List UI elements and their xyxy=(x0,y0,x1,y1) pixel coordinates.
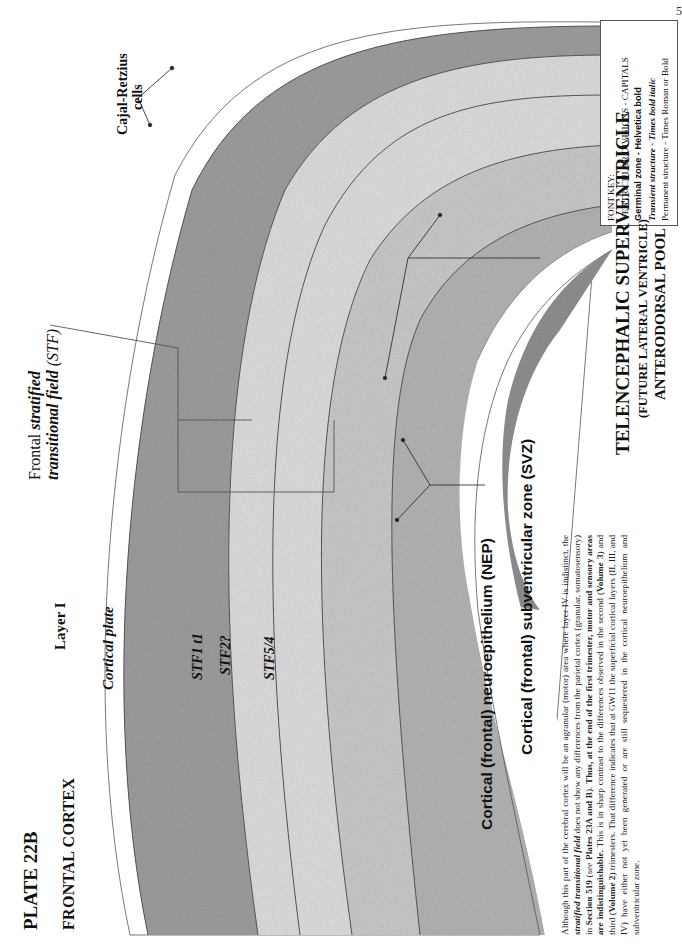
label-cajal-retzius-cells: cells xyxy=(130,84,146,110)
plate-title: PLATE 22B xyxy=(20,832,42,930)
ventricle-title: TELENCEPHALIC SUPERVENTRICLE xyxy=(612,111,634,455)
para-text: ) trimesters. That difference indicates … xyxy=(607,535,641,935)
label-stf-abbrev: (STF) xyxy=(44,329,61,370)
label-transitional-field: transitional field (STF) xyxy=(44,329,62,480)
label-svz: Cortical (frontal) subventricular zone (… xyxy=(518,439,536,755)
label-frontal-stf: Frontal stratified xyxy=(26,371,44,480)
label-stf1: STF1 t1 xyxy=(190,633,206,680)
label-transitional-field-text: transitional field xyxy=(44,370,61,480)
font-key-permanent: Permanent structure - Times Roman or Bol… xyxy=(659,25,673,221)
para-text: ). xyxy=(584,784,594,792)
ventricle-subtitle: (FUTURE LATERAL VENTRICLE) xyxy=(636,219,651,418)
para-text: Although this part of the cerebral corte… xyxy=(560,535,570,935)
para-text: This is in sharp contrast to the differe… xyxy=(595,592,605,850)
body-paragraph: Although this part of the cerebral corte… xyxy=(560,535,643,935)
label-stf2: STF2? xyxy=(218,635,234,675)
ventricle-pool: ANTERODORSAL POOL xyxy=(652,228,669,400)
para-bold: Plates 23A and B xyxy=(584,792,594,860)
label-cortical-plate: Cortical plate xyxy=(100,606,117,690)
label-layer-i: Layer I xyxy=(52,602,69,650)
label-stf54: STF5/4 xyxy=(262,636,278,680)
label-frontal: Frontal xyxy=(26,434,43,480)
para-bold: Section 519 xyxy=(584,880,594,925)
label-nep: Cortical (frontal) neuroepithelium (NEP) xyxy=(478,538,496,830)
font-key-germinal: Germinal zone - Helvetica bold xyxy=(632,25,646,221)
para-text: ( xyxy=(584,874,594,880)
para-bold: Volume 3 xyxy=(595,554,605,592)
para-italic: see xyxy=(584,863,594,875)
para-text xyxy=(584,860,594,863)
para-em: stratified transitional field xyxy=(572,836,582,935)
para-bold: Volume 2 xyxy=(607,876,617,913)
label-stratified: stratified xyxy=(26,371,43,430)
label-cajal-retzius: Cajal-Retzius xyxy=(115,53,131,135)
font-key-transient: Transient structure - Times bold italic xyxy=(646,25,660,221)
plate-subtitle: FRONTAL CORTEX xyxy=(60,778,78,930)
